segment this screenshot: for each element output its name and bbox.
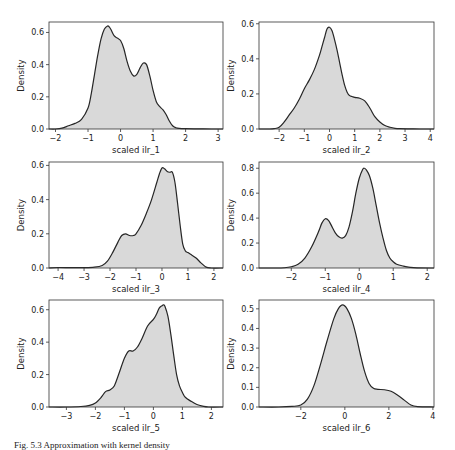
- x-tick-label: 3: [402, 134, 407, 143]
- y-tick-label: 0.2: [241, 239, 254, 248]
- y-tick-label: 0.0: [241, 403, 254, 412]
- y-axis-label: Density: [226, 59, 236, 91]
- y-tick-label: 0.4: [241, 55, 254, 64]
- x-tick-label: 4: [430, 412, 435, 421]
- y-tick-label: 0.4: [31, 196, 44, 205]
- x-tick-label: 2: [183, 134, 188, 143]
- y-tick-label: 0.2: [31, 371, 44, 380]
- x-tick-label: −2: [295, 412, 307, 421]
- x-axis-label: scaled ilr_2: [323, 145, 371, 155]
- x-axis-label: scaled ilr_3: [112, 284, 160, 294]
- kde-panel-1: −2−101230.00.20.40.6scaled ilr_1Density: [16, 22, 223, 155]
- x-tick-label: −1: [319, 273, 331, 282]
- y-tick-label: 0.0: [31, 403, 44, 412]
- y-tick-label: 0.6: [31, 161, 44, 170]
- y-tick-label: 0.2: [241, 364, 254, 373]
- x-axis-label: scaled ilr_4: [323, 284, 371, 294]
- kde-panel-4: −2−10120.00.20.40.60.8scaled ilr_4Densit…: [226, 162, 434, 294]
- y-tick-label: 0.2: [241, 90, 254, 99]
- x-tick-label: −2: [50, 134, 62, 143]
- kde-panel-5: −3−2−10120.00.20.40.6scaled ilr_5Density: [16, 300, 223, 433]
- y-tick-label: 0.0: [241, 125, 254, 134]
- y-tick-label: 0.1: [241, 383, 254, 392]
- y-tick-label: 0.4: [31, 61, 44, 70]
- x-tick-label: −1: [298, 134, 310, 143]
- x-tick-label: 1: [391, 273, 396, 282]
- y-tick-label: 0.0: [31, 264, 44, 273]
- x-tick-label: 2: [377, 134, 382, 143]
- y-tick-label: 0.2: [31, 93, 44, 102]
- x-tick-label: −3: [78, 273, 90, 282]
- y-tick-label: 0.3: [241, 344, 254, 353]
- x-tick-label: 3: [216, 134, 221, 143]
- x-tick-label: 1: [185, 273, 190, 282]
- x-tick-label: 1: [151, 134, 156, 143]
- y-axis-label: Density: [16, 337, 26, 369]
- kde-fill: [259, 168, 434, 268]
- x-tick-label: −3: [61, 412, 73, 421]
- x-tick-label: −1: [82, 134, 94, 143]
- x-tick-label: −2: [104, 273, 116, 282]
- kde-fill: [259, 27, 434, 129]
- y-tick-label: 0.6: [241, 20, 254, 29]
- figure-caption: Fig. 5.3 Approximation with kernel densi…: [14, 440, 170, 450]
- y-axis-label: Density: [226, 337, 236, 369]
- x-tick-label: 0: [342, 412, 347, 421]
- y-tick-label: 0.8: [241, 164, 254, 173]
- y-tick-label: 0.0: [241, 264, 254, 273]
- x-tick-label: 4: [428, 134, 433, 143]
- x-axis-label: scaled ilr_1: [112, 145, 160, 155]
- kde-panel-3: −4−3−2−10120.00.20.40.6scaled ilr_3Densi…: [16, 161, 223, 294]
- x-tick-label: 1: [180, 412, 185, 421]
- kde-fill: [49, 168, 223, 268]
- y-tick-label: 0.2: [31, 230, 44, 239]
- y-tick-label: 0.4: [241, 214, 254, 223]
- x-tick-label: −1: [119, 412, 131, 421]
- y-axis-label: Density: [16, 59, 26, 91]
- kde-panel-6: −20240.00.10.20.30.40.5scaled ilr_6Densi…: [226, 300, 435, 433]
- y-tick-label: 0.6: [241, 189, 254, 198]
- y-tick-label: 0.6: [31, 28, 44, 37]
- x-tick-label: 0: [151, 412, 156, 421]
- x-tick-label: 2: [211, 273, 216, 282]
- x-tick-label: −2: [273, 134, 285, 143]
- y-tick-label: 0.0: [31, 125, 44, 134]
- y-tick-label: 0.6: [31, 306, 44, 315]
- y-axis-label: Density: [16, 199, 26, 231]
- x-tick-label: −2: [90, 412, 102, 421]
- x-axis-label: scaled ilr_6: [323, 423, 371, 433]
- y-tick-label: 0.4: [241, 324, 254, 333]
- y-tick-label: 0.5: [241, 305, 254, 314]
- y-tick-label: 0.4: [31, 338, 44, 347]
- x-tick-label: 2: [209, 412, 214, 421]
- x-tick-label: 0: [159, 273, 164, 282]
- x-tick-label: −1: [130, 273, 142, 282]
- x-tick-label: 0: [327, 134, 332, 143]
- x-tick-label: 0: [118, 134, 123, 143]
- kde-fill: [259, 305, 434, 407]
- kde-fill: [49, 305, 223, 407]
- x-tick-label: 0: [357, 273, 362, 282]
- x-tick-label: 1: [352, 134, 357, 143]
- x-tick-label: −4: [52, 273, 64, 282]
- kde-panel-2: −2−1012340.00.20.40.6scaled ilr_2Density: [226, 20, 434, 155]
- x-tick-label: 2: [425, 273, 430, 282]
- x-tick-label: 2: [386, 412, 391, 421]
- kde-fill: [49, 26, 223, 129]
- y-axis-label: Density: [226, 199, 236, 231]
- x-tick-label: −2: [285, 273, 297, 282]
- x-axis-label: scaled ilr_5: [112, 423, 160, 433]
